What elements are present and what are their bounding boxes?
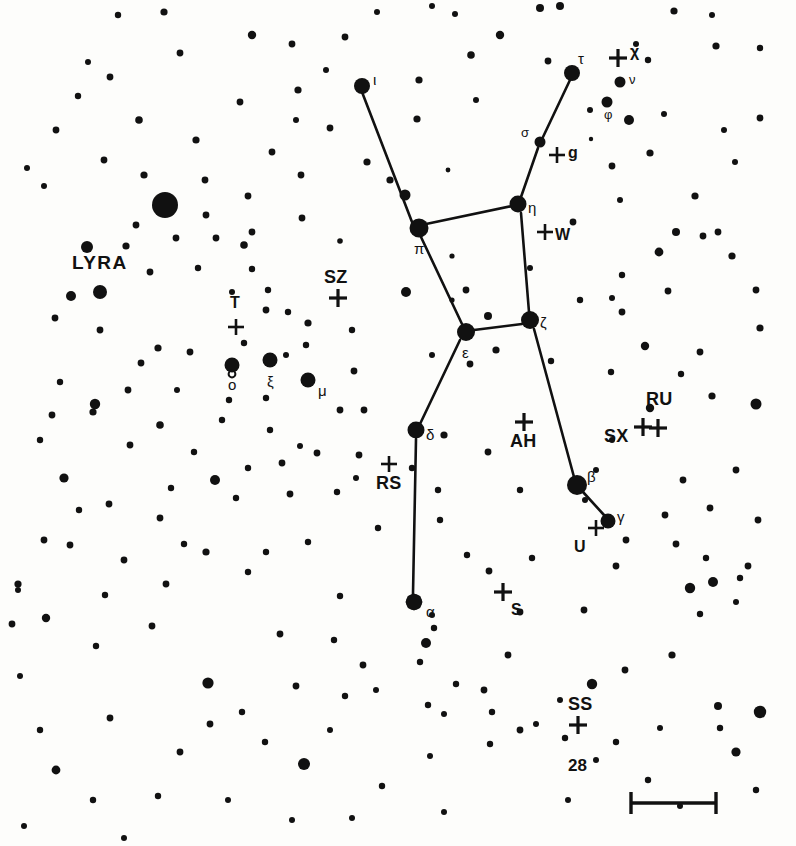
- field-star: [245, 569, 251, 575]
- field-star: [277, 631, 284, 638]
- field-star: [149, 623, 156, 630]
- field-star: [202, 548, 209, 555]
- variable-label-chi: χ: [630, 44, 639, 60]
- field-star: [192, 136, 199, 143]
- field-star: [413, 115, 420, 122]
- field-star: [484, 312, 492, 320]
- star-tau: [564, 65, 580, 81]
- field-star: [751, 399, 762, 410]
- field-star: [753, 287, 760, 294]
- variable-label-ru-var: RU: [646, 390, 673, 408]
- field-star: [609, 295, 615, 301]
- star-label-alpha-vega: α: [426, 604, 435, 619]
- field-star: [421, 638, 431, 648]
- field-star: [429, 3, 435, 9]
- field-star-layer: [9, 2, 767, 841]
- field-star: [464, 552, 470, 558]
- variable-label-s-var: S: [511, 602, 522, 618]
- field-star: [673, 541, 680, 548]
- field-star: [327, 125, 334, 132]
- field-star: [427, 753, 433, 759]
- field-star: [76, 507, 82, 513]
- field-star: [191, 449, 197, 455]
- star-beta: [567, 475, 587, 495]
- star-epsilon: [457, 323, 475, 341]
- field-star: [160, 8, 167, 15]
- field-star: [745, 563, 752, 570]
- field-star: [489, 709, 495, 715]
- field-star: [337, 238, 343, 244]
- variable-star-w-var: [537, 224, 553, 240]
- variable-star-ss-var: [569, 716, 587, 734]
- star-mu: [301, 373, 316, 388]
- field-star: [353, 475, 359, 481]
- star-iota: [354, 78, 370, 94]
- variable-label-t-var: T: [230, 295, 240, 311]
- field-star: [435, 487, 441, 493]
- field-star: [263, 307, 270, 314]
- field-star: [41, 537, 48, 544]
- field-star: [697, 349, 704, 356]
- field-star: [285, 309, 291, 315]
- field-star: [267, 427, 273, 433]
- field-star: [89, 408, 96, 415]
- field-star: [360, 662, 367, 669]
- field-star: [210, 475, 220, 485]
- field-star: [757, 45, 763, 51]
- field-star: [363, 158, 370, 165]
- field-star: [565, 797, 571, 803]
- variable-star-g-var: [549, 147, 565, 163]
- field-star: [49, 412, 56, 419]
- field-star: [203, 212, 210, 219]
- field-star: [373, 687, 379, 693]
- field-star: [517, 487, 523, 493]
- star-eta: [510, 196, 527, 213]
- field-star: [577, 297, 583, 303]
- field-star: [431, 625, 437, 631]
- field-star: [233, 495, 239, 501]
- field-star: [115, 12, 121, 18]
- field-star: [294, 86, 301, 93]
- field-star: [75, 93, 81, 99]
- constellation-label-lyra: LYRA: [72, 253, 128, 272]
- field-star: [678, 371, 684, 377]
- field-star: [187, 349, 194, 356]
- field-star: [304, 319, 311, 326]
- field-star: [441, 711, 447, 717]
- field-star: [67, 542, 74, 549]
- field-star: [342, 693, 348, 699]
- field-star: [449, 253, 454, 258]
- field-star: [379, 783, 385, 789]
- constellation-line-epsilon-to-pi: [421, 237, 462, 324]
- field-star: [66, 291, 76, 301]
- field-star: [437, 517, 443, 523]
- field-star: [733, 599, 739, 605]
- star-label-omicron: ο: [228, 377, 236, 392]
- field-star: [453, 681, 459, 687]
- field-star: [337, 593, 343, 599]
- field-star: [122, 242, 129, 249]
- field-star: [155, 793, 161, 799]
- star-label-pi: π: [414, 241, 424, 256]
- field-star: [52, 315, 59, 322]
- constellation-line-eta-to-sigma: [521, 148, 538, 197]
- field-star: [703, 555, 709, 561]
- field-star: [107, 715, 114, 722]
- field-star: [177, 749, 184, 756]
- field-star: [609, 163, 616, 170]
- constellation-line-epsilon-to-delta: [420, 340, 460, 424]
- field-star: [226, 397, 232, 403]
- variable-star-sx-var: [634, 418, 652, 436]
- scale-bar-layer: [631, 792, 716, 814]
- star-label-epsilon: ε: [462, 345, 469, 360]
- field-star: [562, 735, 568, 741]
- field-star: [700, 233, 707, 240]
- variable-label-w-var: W: [555, 227, 570, 243]
- field-star: [305, 539, 311, 545]
- field-star: [106, 501, 113, 508]
- field-star: [52, 766, 61, 775]
- field-star: [670, 7, 677, 14]
- field-star: [356, 452, 363, 459]
- field-star: [349, 815, 355, 821]
- field-star: [323, 67, 329, 73]
